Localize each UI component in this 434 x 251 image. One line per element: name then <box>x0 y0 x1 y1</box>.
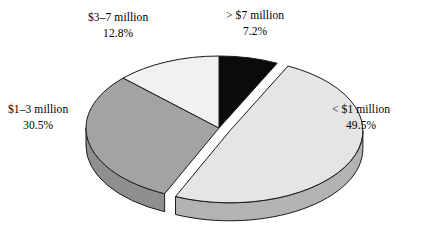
slice-label-1to3-million: $1–3 million 30.5% <box>8 102 68 133</box>
slice-label-gt7-percent: 7.2% <box>226 24 284 40</box>
slice-label-3to7-name: $3–7 million <box>88 10 148 26</box>
slice-label-1to3-name: $1–3 million <box>8 102 68 118</box>
slice-label-3to7-percent: 12.8% <box>88 26 148 42</box>
slice-label-gt7-name: > $7 million <box>226 8 284 24</box>
pie-top-faces <box>86 56 363 203</box>
slice-label-gt7-million: > $7 million 7.2% <box>226 8 284 39</box>
slice-label-lt1-percent: 49.5% <box>332 118 390 134</box>
slice-label-lt1-million: < $1 million 49.5% <box>332 102 390 133</box>
slice-label-lt1-name: < $1 million <box>332 102 390 118</box>
slice-label-1to3-percent: 30.5% <box>8 118 68 134</box>
pie-chart: > $7 million 7.2% $3–7 million 12.8% $1–… <box>0 0 434 251</box>
slice-label-3to7-million: $3–7 million 12.8% <box>88 10 148 41</box>
